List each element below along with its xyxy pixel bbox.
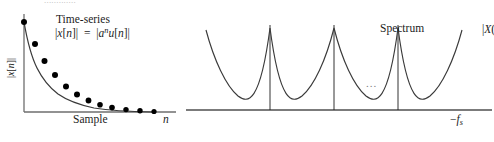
spectrum-plot — [180, 0, 494, 142]
data-point — [97, 102, 103, 108]
data-point — [21, 19, 27, 25]
time-series-y-axis-label: |x[n]| — [6, 48, 16, 88]
signal-processing-figure: ............. — [0, 0, 494, 142]
time-series-title: Time-series — [56, 14, 110, 26]
spectrum-xtick-negative-fs: −fs — [450, 114, 463, 128]
data-point — [74, 92, 80, 98]
data-point — [52, 72, 58, 78]
data-point — [109, 105, 115, 111]
data-point — [151, 109, 156, 114]
time-series-equation: |x[n]| = |anu[n]| — [55, 27, 130, 39]
data-point — [137, 108, 142, 113]
spectrum-magnitude-label: |X(f)| — [482, 24, 494, 36]
spectrum-title: Spectrum — [380, 23, 424, 35]
data-point — [86, 98, 92, 104]
data-point — [32, 41, 38, 47]
data-point — [123, 107, 128, 112]
data-point — [63, 84, 69, 90]
time-series-x-axis-label: Sample — [73, 114, 108, 126]
spectrum-panel: Spectrum |X(f)| ... ... −fs 0 fs Hz — [180, 0, 494, 142]
spectrum-ellipsis-left: ... — [366, 78, 377, 89]
time-series-panel: Time-series |x[n]| = |anu[n]| |x[n]| Sam… — [0, 0, 180, 142]
time-series-x-variable-label: n — [163, 114, 169, 126]
data-point — [42, 58, 48, 64]
